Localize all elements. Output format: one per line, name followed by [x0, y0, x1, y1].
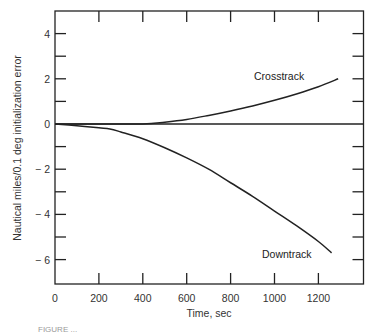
plot-frame: [55, 11, 364, 284]
downtrack-line: [55, 124, 332, 253]
y-tick-label: − 4: [35, 208, 50, 220]
y-tick-label: 2: [44, 73, 50, 85]
figure-caption: FIGURE ...: [38, 325, 77, 333]
x-axis-title: Time, sec: [186, 307, 231, 319]
crosstrack-label: Crosstrack: [254, 70, 305, 82]
axis-ticks: [55, 11, 364, 284]
x-tick-label: 1000: [263, 292, 287, 304]
downtrack-label: Downtrack: [262, 248, 312, 260]
y-tick-label: 0: [44, 118, 50, 130]
line-chart: 020040060080010001200 420− 2− 4− 6 Time,…: [0, 0, 374, 333]
y-axis-title: Nautical miles/0.1 deg initialization er…: [11, 55, 23, 241]
crosstrack-line: [55, 79, 338, 124]
y-tick-label: 4: [44, 28, 50, 40]
x-tick-label: 0: [52, 292, 58, 304]
x-tick-label: 800: [222, 292, 240, 304]
y-tick-label: − 6: [35, 254, 50, 266]
x-tick-label: 1200: [307, 292, 331, 304]
data-lines: [55, 79, 364, 253]
x-tick-labels: 020040060080010001200: [52, 292, 330, 304]
y-tick-labels: 420− 2− 4− 6: [35, 28, 50, 266]
x-tick-label: 400: [134, 292, 152, 304]
x-tick-label: 200: [90, 292, 108, 304]
y-tick-label: − 2: [35, 163, 50, 175]
x-tick-label: 600: [178, 292, 196, 304]
